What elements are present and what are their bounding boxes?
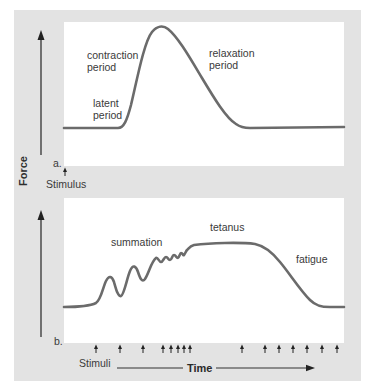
panel-a-letter: a. xyxy=(53,157,62,169)
label-tetanus: tetanus xyxy=(210,221,244,233)
diagram-graphics xyxy=(0,0,371,392)
stimulus-arrow-icon xyxy=(277,345,281,354)
stimulus-arrow-icon xyxy=(182,345,186,354)
label-stimuli: Stimuli xyxy=(79,357,111,369)
stimulus-arrow-icon xyxy=(176,345,180,354)
stimulus-arrow-icon xyxy=(169,345,173,354)
stimulus-arrow-icon xyxy=(305,345,309,354)
label-relaxation-period: relaxation period xyxy=(209,47,255,71)
label-stimulus: Stimulus xyxy=(46,178,86,190)
stimulus-arrow-icon xyxy=(188,345,192,354)
label-latent-period: latent period xyxy=(93,97,122,121)
x-axis-label-time: Time xyxy=(187,362,212,374)
stimulus-arrow-icon xyxy=(161,345,165,354)
label-summation: summation xyxy=(111,236,162,248)
stimulus-arrow-icon xyxy=(118,345,122,354)
stimulus-arrow-icon xyxy=(240,345,244,354)
panel-b-letter: b. xyxy=(54,335,63,347)
stimulus-arrow-icon xyxy=(94,345,98,354)
label-fatigue: fatigue xyxy=(296,253,328,265)
panel-a-force-axis-arrow xyxy=(38,30,45,155)
panel-b-force-axis-arrow xyxy=(38,210,45,337)
stimulus-arrow-icon xyxy=(291,345,295,354)
muscle-contraction-figure: Force contraction period latent period r… xyxy=(0,0,371,392)
time-axis-arrow xyxy=(117,365,315,371)
panel-b-stimuli-arrows xyxy=(94,345,339,354)
label-contraction-period: contraction period xyxy=(87,49,138,73)
stimulus-arrow-icon xyxy=(141,345,145,354)
stimulus-arrow-icon xyxy=(335,345,339,354)
panel-a-stimulus-arrow-icon xyxy=(63,168,67,177)
stimulus-arrow-icon xyxy=(320,345,324,354)
y-axis-label-force: Force xyxy=(16,156,30,186)
stimulus-arrow-icon xyxy=(263,345,267,354)
